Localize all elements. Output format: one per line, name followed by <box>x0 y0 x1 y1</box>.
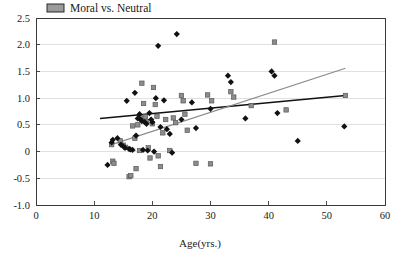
x-tick-label: 20 <box>147 210 158 221</box>
data-point-neutral <box>272 40 276 44</box>
y-tick-label: 1.0 <box>17 93 30 104</box>
data-point-moral <box>193 125 199 131</box>
data-point-neutral <box>183 112 187 116</box>
data-point-neutral <box>129 173 133 177</box>
data-point-neutral <box>179 93 183 97</box>
data-point-neutral <box>153 102 157 106</box>
x-tick-label: 10 <box>89 210 100 221</box>
data-point-neutral <box>158 164 162 168</box>
data-point-moral <box>174 31 180 37</box>
trendline-neutral <box>112 68 346 144</box>
data-point-moral <box>132 90 138 96</box>
trendline-moral <box>100 95 345 118</box>
data-point-neutral <box>171 116 175 120</box>
data-point-neutral <box>208 162 212 166</box>
data-point-neutral <box>148 156 152 160</box>
data-point-moral <box>153 95 159 101</box>
data-point-neutral <box>140 81 144 85</box>
data-point-neutral <box>151 85 155 89</box>
data-point-neutral <box>143 115 147 119</box>
data-point-moral <box>104 162 110 168</box>
data-point-neutral <box>343 93 347 97</box>
series-neutral-points <box>109 40 347 179</box>
chart-figure: Moral vs. Neutral 0102030405060 -1.0-0.5… <box>0 0 396 254</box>
data-point-moral <box>242 115 248 121</box>
data-point-neutral <box>155 114 159 118</box>
data-point-moral <box>228 79 234 85</box>
y-tick-label: 1.5 <box>17 66 30 77</box>
trend-lines <box>100 68 345 144</box>
data-point-neutral <box>161 131 165 135</box>
data-point-neutral <box>194 161 198 165</box>
data-point-neutral <box>181 99 185 103</box>
x-axis-ticks: 0102030405060 <box>33 201 390 221</box>
legend-label-moral-vs-neutral: Moral vs. Neutral <box>70 2 151 14</box>
data-point-neutral <box>209 99 213 103</box>
data-point-moral <box>225 73 231 79</box>
grid-lines <box>36 18 385 178</box>
data-point-neutral <box>185 128 189 132</box>
data-point-neutral <box>205 93 209 97</box>
data-point-neutral <box>112 161 116 165</box>
data-point-neutral <box>130 124 134 128</box>
data-point-neutral <box>173 121 177 125</box>
series-moral-points <box>104 31 347 168</box>
chart-legend: Moral vs. Neutral <box>47 2 151 14</box>
data-point-neutral <box>229 90 233 94</box>
legend-swatch-moral-vs-neutral <box>47 4 64 12</box>
x-tick-label: 0 <box>33 210 38 221</box>
x-tick-label: 50 <box>322 210 333 221</box>
y-tick-label: -0.5 <box>13 173 30 184</box>
data-point-neutral <box>284 108 288 112</box>
y-tick-label: 0.5 <box>17 119 30 130</box>
data-point-moral <box>295 138 301 144</box>
data-point-moral <box>341 123 347 129</box>
data-point-moral <box>167 131 173 137</box>
data-point-moral <box>124 98 130 104</box>
data-point-neutral <box>134 166 138 170</box>
data-point-moral <box>274 110 280 116</box>
data-point-neutral <box>249 103 253 107</box>
data-point-moral <box>189 99 195 105</box>
data-point-neutral <box>136 123 140 127</box>
x-axis-title: Age(yrs.) <box>179 237 221 250</box>
y-tick-label: 2.0 <box>17 39 30 50</box>
x-tick-label: 40 <box>263 210 274 221</box>
scatter-plot: Moral vs. Neutral 0102030405060 -1.0-0.5… <box>0 0 396 254</box>
x-tick-label: 30 <box>205 210 216 221</box>
data-point-neutral <box>232 95 236 99</box>
data-point-neutral <box>164 117 168 121</box>
y-tick-label: -1.0 <box>13 200 30 211</box>
y-tick-label: 2.5 <box>17 13 30 24</box>
data-point-moral <box>155 43 161 49</box>
data-point-neutral <box>156 154 160 158</box>
x-tick-label: 60 <box>380 210 391 221</box>
data-point-neutral <box>141 101 145 105</box>
y-tick-label: 0 <box>25 146 30 157</box>
